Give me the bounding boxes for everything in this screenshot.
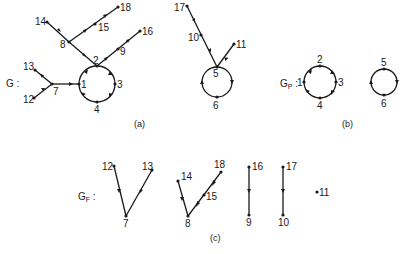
panel-a: G : 1 2 3 4 13 12 7 (6, 2, 247, 129)
label-node-8: 8 (60, 39, 66, 50)
arrow-c-18-15 (212, 180, 216, 186)
edge-13-7 (35, 70, 52, 84)
panel-c: GF : 12 13 7 14 18 15 8 16 9 (78, 159, 330, 243)
label-node-9: 9 (120, 46, 126, 57)
label-node-3: 3 (117, 79, 123, 90)
label-node-18: 18 (120, 2, 132, 13)
arrow-b-3-4 (331, 90, 335, 95)
label-node-15: 15 (98, 22, 110, 33)
label-node-14: 14 (35, 16, 47, 27)
edge-11-5 (217, 44, 234, 67)
label-b-node-4: 4 (317, 100, 323, 111)
label-c-node-16: 16 (252, 161, 264, 172)
node-c-17 (281, 165, 284, 168)
edge-c-13-7 (126, 170, 152, 216)
label-c-node-12: 12 (102, 161, 114, 172)
label-node-17: 17 (174, 2, 186, 13)
node-15 (93, 22, 96, 25)
label-node-13: 13 (23, 61, 35, 72)
arrow-b-5-6 (395, 80, 399, 84)
edge-14-8 (47, 22, 69, 42)
node-6 (215, 95, 218, 98)
label-c-node-7: 7 (123, 218, 129, 229)
graph-label-gp: GP : (280, 78, 298, 90)
node-c-18 (219, 170, 222, 173)
graph-label-g: G : (6, 78, 19, 89)
node-10 (199, 33, 202, 36)
label-c-node-14: 14 (181, 171, 193, 182)
label-node-4: 4 (94, 104, 100, 115)
node-8 (67, 40, 70, 43)
label-c-node-9: 9 (246, 217, 252, 228)
label-b-node-2: 2 (317, 54, 323, 65)
label-b-node-1: 1 (297, 77, 303, 88)
label-node-5: 5 (213, 68, 219, 79)
label-c-node-11: 11 (319, 187, 330, 198)
label-c-node-8: 8 (185, 218, 191, 229)
label-b-node-5: 5 (381, 57, 387, 68)
cycle-5-6-b (371, 69, 397, 95)
caption-c: (c) (210, 233, 221, 243)
arrow-5-6 (230, 80, 234, 84)
label-b-node-6: 6 (381, 98, 387, 109)
caption-a: (a) (134, 119, 145, 129)
label-b-node-3: 3 (338, 77, 344, 88)
arrow-b-4-1 (305, 89, 310, 93)
panel-b: GP : 1 2 3 4 5 6 (b) (280, 54, 399, 129)
graph-diagram: G : 1 2 3 4 13 12 7 (0, 0, 402, 254)
arrow-7-1 (69, 82, 73, 86)
label-c-node-17: 17 (286, 161, 298, 172)
arrow-c-16-9 (247, 189, 251, 193)
label-node-11: 11 (236, 39, 247, 50)
label-c-node-15: 15 (206, 191, 218, 202)
label-node-10: 10 (188, 32, 200, 43)
node-b-6 (382, 93, 385, 96)
arrow-6-5 (200, 80, 204, 84)
node-c-14 (176, 179, 179, 182)
node-17 (185, 4, 188, 7)
label-node-16: 16 (142, 26, 154, 37)
node-c-16 (247, 165, 250, 168)
label-c-node-13: 13 (142, 161, 154, 172)
label-node-7: 7 (53, 86, 59, 97)
arrow-b-6-5 (369, 80, 373, 84)
arrow-c-15-8 (196, 201, 200, 207)
arrow-c-17-10 (281, 189, 285, 193)
node-b-1 (302, 80, 305, 83)
label-node-6: 6 (213, 100, 219, 111)
label-c-node-10: 10 (278, 217, 290, 228)
caption-b: (b) (342, 119, 353, 129)
graph-label-gf: GF : (78, 191, 96, 203)
label-c-node-18: 18 (214, 159, 226, 170)
arrow-c-13-7 (139, 189, 143, 194)
label-node-12: 12 (23, 94, 35, 105)
label-node-1: 1 (81, 79, 87, 90)
